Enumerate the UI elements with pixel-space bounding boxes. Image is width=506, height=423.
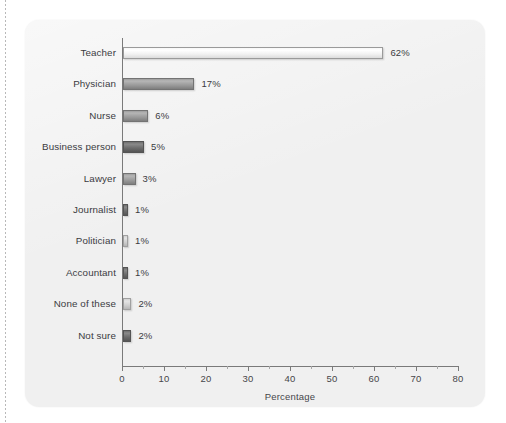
bar-row: Physician17% [0, 77, 506, 91]
bar-row: Journalist1% [0, 203, 506, 217]
bar[interactable] [123, 78, 194, 90]
bar-value-label: 6% [155, 109, 169, 123]
bar[interactable] [123, 110, 148, 122]
bar-value-label: 62% [390, 46, 410, 60]
bar[interactable] [123, 330, 131, 342]
category-label: Business person [0, 140, 116, 154]
bar-value-label: 1% [135, 234, 149, 248]
x-tick-label: 20 [193, 373, 219, 384]
bar-value-label: 2% [138, 297, 152, 311]
bar-row: None of these2% [0, 297, 506, 311]
x-tick-label: 40 [277, 373, 303, 384]
x-tick-major [248, 366, 249, 371]
x-tick-major [206, 366, 207, 371]
category-label: Journalist [0, 203, 116, 217]
x-tick-label: 30 [235, 373, 261, 384]
bar[interactable] [123, 235, 128, 247]
x-tick-label: 60 [361, 373, 387, 384]
category-label: Politician [0, 234, 116, 248]
x-tick-label: 10 [151, 373, 177, 384]
x-tick-minor [143, 366, 144, 369]
x-tick-minor [437, 366, 438, 369]
category-label: Lawyer [0, 172, 116, 186]
x-tick-label: 70 [403, 373, 429, 384]
category-label: Accountant [0, 266, 116, 280]
x-tick-minor [353, 366, 354, 369]
bar-value-label: 1% [135, 266, 149, 280]
bar-value-label: 1% [135, 203, 149, 217]
bar-row: Politician1% [0, 234, 506, 248]
bar-row: Business person5% [0, 140, 506, 154]
category-label: Nurse [0, 109, 116, 123]
x-tick-minor [395, 366, 396, 369]
x-tick-major [164, 366, 165, 371]
x-tick-major [458, 366, 459, 371]
category-label: Teacher [0, 46, 116, 60]
x-tick-major [290, 366, 291, 371]
bar-value-label: 3% [143, 172, 157, 186]
x-tick-minor [185, 366, 186, 369]
bar[interactable] [123, 141, 144, 153]
x-tick-label: 80 [445, 373, 471, 384]
x-tick-label: 50 [319, 373, 345, 384]
x-tick-major [332, 366, 333, 371]
category-label: Physician [0, 77, 116, 91]
bar-row: Not sure2% [0, 329, 506, 343]
bar-row: Teacher62% [0, 46, 506, 60]
bar[interactable] [123, 267, 128, 279]
bar-row: Accountant1% [0, 266, 506, 280]
bar-row: Lawyer3% [0, 172, 506, 186]
bar-value-label: 17% [201, 77, 221, 91]
bar-chart: 01020304050607080 Teacher62%Physician17%… [0, 0, 506, 423]
bar-value-label: 5% [151, 140, 165, 154]
x-tick-major [416, 366, 417, 371]
x-tick-minor [227, 366, 228, 369]
bar-value-label: 2% [138, 329, 152, 343]
x-tick-major [122, 366, 123, 371]
bar[interactable] [123, 298, 131, 310]
x-tick-label: 0 [109, 373, 135, 384]
x-tick-major [374, 366, 375, 371]
x-tick-minor [311, 366, 312, 369]
bar[interactable] [123, 173, 136, 185]
bar[interactable] [123, 47, 383, 59]
category-label: None of these [0, 297, 116, 311]
bar-row: Nurse6% [0, 109, 506, 123]
x-axis-title: Percentage [122, 391, 458, 402]
bar[interactable] [123, 204, 128, 216]
category-label: Not sure [0, 329, 116, 343]
x-tick-minor [269, 366, 270, 369]
